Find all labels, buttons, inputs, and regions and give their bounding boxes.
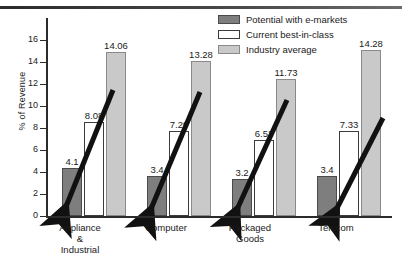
- bar-group-appliance-industrial: 4.1 8.08 14.06: [62, 18, 126, 216]
- legend-label: Current best-in-class: [246, 29, 334, 40]
- bar-group-computer: 3.4 7.29 13.28: [147, 18, 211, 216]
- legend-swatch-icon: [218, 30, 240, 39]
- legend-label: Potential with e-markets: [246, 14, 347, 25]
- bar-potential-telecom[interactable]: 3.4: [317, 176, 337, 216]
- category-line: Computer: [128, 222, 204, 233]
- bar-value-label: 8.08: [85, 110, 104, 121]
- bar-value-label: 14.28: [359, 38, 383, 49]
- bar-industry-telecom[interactable]: 14.28: [361, 50, 381, 216]
- bar-value-label: 4.1: [65, 156, 78, 167]
- bar-industry-appliance-industrial[interactable]: 14.06: [106, 52, 126, 216]
- y-tick-label-12: 12: [20, 78, 38, 88]
- legend-label: Industry average: [246, 44, 317, 55]
- bar-value-label: 3.4: [320, 164, 333, 175]
- bar-potential-appliance-industrial[interactable]: 4.1: [62, 168, 82, 216]
- x-axis-label-computer: Computer: [128, 222, 204, 233]
- bar-value-label: 13.28: [189, 49, 213, 60]
- bar-current-packaged-goods[interactable]: 6.52: [254, 140, 274, 216]
- y-tick-label-10: 10: [20, 100, 38, 110]
- bar-current-computer[interactable]: 7.29: [169, 131, 189, 216]
- category-line: Telecom: [298, 222, 374, 233]
- bar-value-label: 6.52: [255, 128, 274, 139]
- y-tick-label-0: 0: [20, 210, 38, 220]
- bar-industry-packaged-goods[interactable]: 11.73: [276, 79, 296, 216]
- y-tick-label-16: 16: [20, 34, 38, 44]
- bar-value-label: 3.2: [235, 167, 248, 178]
- bar-current-appliance-industrial[interactable]: 8.08: [84, 122, 104, 216]
- bar-value-label: 3.4: [150, 164, 163, 175]
- x-axis-label-packaged-goods: Packaged Goods: [212, 222, 288, 244]
- legend-item-potential[interactable]: Potential with e-markets: [218, 14, 347, 25]
- x-axis-line: [46, 216, 392, 218]
- category-line: Appliance: [42, 222, 118, 233]
- category-line: &: [42, 233, 118, 244]
- y-tick-label-4: 4: [20, 166, 38, 176]
- bar-value-label: 11.73: [274, 67, 297, 78]
- y-tick-label-2: 2: [20, 188, 38, 198]
- legend-swatch-icon: [218, 45, 240, 54]
- bar-industry-computer[interactable]: 13.28: [191, 61, 211, 216]
- x-axis-label-telecom: Telecom: [298, 222, 374, 233]
- category-line: Packaged: [212, 222, 288, 233]
- legend-item-current[interactable]: Current best-in-class: [218, 29, 347, 40]
- category-line: Goods: [212, 233, 288, 244]
- legend: Potential with e-markets Current best-in…: [218, 14, 347, 59]
- y-tick-label-14: 14: [20, 56, 38, 66]
- bar-potential-packaged-goods[interactable]: 3.2: [232, 179, 252, 216]
- bar-current-telecom[interactable]: 7.33: [339, 131, 359, 216]
- legend-swatch-icon: [218, 15, 240, 24]
- bar-chart: % of Revenue 16 14 12 10 8 6 4 2 0 4.1 8…: [0, 0, 402, 264]
- y-tick-label-6: 6: [20, 144, 38, 154]
- bar-value-label: 7.33: [340, 119, 359, 130]
- category-line: Industrial: [42, 244, 118, 255]
- legend-item-industry[interactable]: Industry average: [218, 44, 347, 55]
- y-tick-label-8: 8: [20, 122, 38, 132]
- x-axis-label-appliance-industrial: Appliance & Industrial: [42, 222, 118, 255]
- top-divider: [0, 6, 402, 9]
- bar-value-label: 7.29: [170, 119, 189, 130]
- bar-potential-computer[interactable]: 3.4: [147, 176, 167, 216]
- bar-value-label: 14.06: [104, 40, 128, 51]
